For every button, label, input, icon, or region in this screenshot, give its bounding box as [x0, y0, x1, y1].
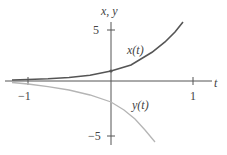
- curve-label-y: y(t): [132, 98, 149, 113]
- chart-plot: [0, 0, 227, 155]
- tick-label-neg1: −1: [18, 89, 31, 104]
- x0-point: [109, 69, 112, 72]
- y-axis-label: x, y: [101, 4, 118, 19]
- tick-label-neg5: −5: [88, 129, 101, 144]
- tick-label-pos1: 1: [190, 89, 196, 104]
- tick-label-pos5: 5: [93, 23, 99, 38]
- curve-label-x: x(t): [127, 43, 144, 58]
- x-axis-label: t: [214, 76, 217, 91]
